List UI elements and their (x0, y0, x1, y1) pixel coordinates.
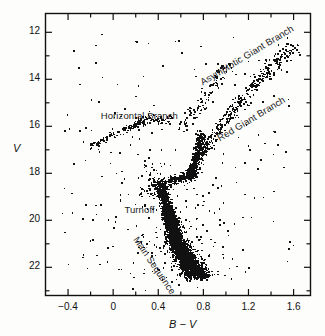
x-tick-label: 0.8 (189, 301, 217, 312)
y-tick-label: 16 (20, 119, 40, 130)
x-tick-label: 0 (99, 301, 127, 312)
y-tick-label: 18 (20, 166, 40, 177)
y-tick-label: 12 (20, 25, 40, 36)
x-axis-title: B − V (169, 318, 196, 330)
y-tick-label: 14 (20, 72, 40, 83)
y-tick-label: 20 (20, 213, 40, 224)
color-magnitude-diagram: −0.400.40.81.21.6121416182022 B − V V As… (0, 0, 325, 336)
y-tick-label: 22 (20, 260, 40, 271)
annotation-turnoff: Turnoff (124, 204, 154, 215)
y-axis-title: V (13, 142, 20, 154)
x-tick-label: 1.2 (234, 301, 262, 312)
x-tick-label: 0.4 (144, 301, 172, 312)
x-tick-label: 1.6 (280, 301, 308, 312)
x-tick-label: −0.4 (54, 301, 82, 312)
annotation-horizontal_branch: Horizontal Branch (101, 110, 178, 121)
